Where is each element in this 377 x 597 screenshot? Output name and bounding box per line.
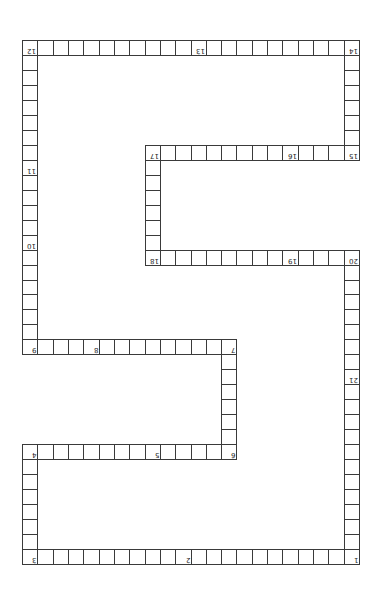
numbered-grid-cell[interactable]: 3: [22, 549, 38, 565]
grid-cell[interactable]: [129, 339, 146, 355]
numbered-grid-cell[interactable]: 13: [191, 40, 207, 56]
grid-cell[interactable]: [68, 40, 84, 56]
grid-cell[interactable]: [37, 40, 54, 56]
grid-cell[interactable]: [344, 280, 360, 295]
grid-cell[interactable]: [37, 339, 54, 355]
grid-cell[interactable]: [282, 549, 299, 565]
grid-cell[interactable]: [267, 40, 283, 56]
grid-cell[interactable]: [344, 459, 360, 475]
grid-cell[interactable]: [53, 40, 69, 56]
grid-cell[interactable]: [114, 549, 130, 565]
numbered-grid-cell[interactable]: 8: [83, 339, 100, 355]
grid-cell[interactable]: [191, 549, 207, 565]
grid-cell[interactable]: [344, 339, 360, 355]
grid-cell[interactable]: [328, 549, 345, 565]
grid-cell[interactable]: [22, 309, 38, 325]
grid-cell[interactable]: [175, 40, 192, 56]
grid-cell[interactable]: [83, 40, 100, 56]
grid-cell[interactable]: [328, 250, 345, 266]
numbered-grid-cell[interactable]: 17: [145, 145, 161, 161]
numbered-grid-cell[interactable]: 10: [22, 235, 38, 251]
grid-cell[interactable]: [160, 444, 176, 460]
grid-cell[interactable]: [236, 145, 253, 161]
grid-cell[interactable]: [206, 40, 222, 56]
grid-cell[interactable]: [160, 145, 176, 161]
numbered-grid-cell[interactable]: 20: [344, 250, 360, 266]
grid-cell[interactable]: [344, 384, 360, 400]
grid-cell[interactable]: [145, 220, 161, 236]
grid-cell[interactable]: [114, 40, 130, 56]
grid-cell[interactable]: [22, 205, 38, 221]
grid-cell[interactable]: [221, 145, 237, 161]
numbered-grid-cell[interactable]: 5: [145, 444, 161, 460]
grid-cell[interactable]: [22, 324, 38, 340]
grid-cell[interactable]: [160, 250, 176, 266]
grid-cell[interactable]: [22, 474, 38, 490]
grid-cell[interactable]: [344, 55, 360, 71]
grid-cell[interactable]: [22, 294, 38, 310]
grid-cell[interactable]: [344, 489, 360, 505]
grid-cell[interactable]: [145, 549, 161, 565]
grid-cell[interactable]: [53, 339, 69, 355]
grid-cell[interactable]: [175, 250, 192, 266]
numbered-grid-cell[interactable]: 14: [344, 40, 360, 56]
grid-cell[interactable]: [22, 115, 38, 131]
grid-cell[interactable]: [206, 444, 222, 460]
grid-cell[interactable]: [22, 55, 38, 71]
grid-cell[interactable]: [22, 175, 38, 191]
grid-cell[interactable]: [22, 459, 38, 475]
grid-cell[interactable]: [145, 235, 161, 251]
grid-cell[interactable]: [22, 519, 38, 535]
grid-cell[interactable]: [252, 145, 268, 161]
grid-cell[interactable]: [191, 339, 207, 355]
grid-cell[interactable]: [328, 40, 345, 56]
numbered-grid-cell[interactable]: 7: [221, 339, 237, 355]
grid-cell[interactable]: [298, 145, 314, 161]
grid-cell[interactable]: [252, 549, 268, 565]
grid-cell[interactable]: [22, 85, 38, 101]
numbered-grid-cell[interactable]: 9: [22, 339, 38, 355]
grid-cell[interactable]: [206, 549, 222, 565]
grid-cell[interactable]: [221, 354, 237, 370]
grid-cell[interactable]: [313, 40, 329, 56]
grid-cell[interactable]: [206, 339, 222, 355]
grid-cell[interactable]: [145, 190, 161, 206]
grid-cell[interactable]: [22, 100, 38, 116]
grid-cell[interactable]: [22, 220, 38, 236]
grid-cell[interactable]: [252, 250, 268, 266]
grid-cell[interactable]: [344, 115, 360, 131]
grid-cell[interactable]: [344, 444, 360, 460]
grid-cell[interactable]: [145, 160, 161, 176]
grid-cell[interactable]: [145, 40, 161, 56]
grid-cell[interactable]: [298, 40, 314, 56]
grid-cell[interactable]: [68, 549, 84, 565]
numbered-grid-cell[interactable]: 11: [22, 160, 38, 176]
grid-cell[interactable]: [221, 384, 237, 400]
grid-cell[interactable]: [267, 549, 283, 565]
grid-cell[interactable]: [236, 40, 253, 56]
grid-cell[interactable]: [344, 294, 360, 310]
grid-cell[interactable]: [221, 549, 237, 565]
numbered-grid-cell[interactable]: 19: [282, 250, 299, 266]
grid-cell[interactable]: [53, 549, 69, 565]
grid-cell[interactable]: [175, 339, 192, 355]
grid-cell[interactable]: [344, 414, 360, 430]
numbered-grid-cell[interactable]: 18: [145, 250, 161, 266]
grid-cell[interactable]: [344, 354, 360, 370]
grid-cell[interactable]: [129, 444, 146, 460]
grid-cell[interactable]: [22, 70, 38, 86]
grid-cell[interactable]: [160, 40, 176, 56]
grid-cell[interactable]: [22, 130, 38, 146]
grid-cell[interactable]: [145, 175, 161, 191]
grid-cell[interactable]: [175, 444, 192, 460]
numbered-grid-cell[interactable]: 6: [221, 444, 237, 460]
grid-cell[interactable]: [328, 145, 345, 161]
grid-cell[interactable]: [221, 40, 237, 56]
grid-cell[interactable]: [267, 250, 283, 266]
numbered-grid-cell[interactable]: 16: [282, 145, 299, 161]
grid-cell[interactable]: [344, 265, 360, 281]
grid-cell[interactable]: [22, 534, 38, 550]
grid-cell[interactable]: [282, 40, 299, 56]
grid-cell[interactable]: [298, 549, 314, 565]
numbered-grid-cell[interactable]: 2: [175, 549, 192, 565]
